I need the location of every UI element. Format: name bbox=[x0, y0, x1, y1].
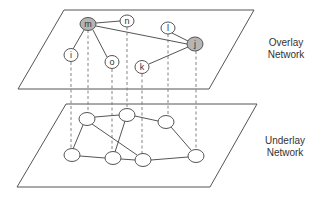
overlay-node-l: l bbox=[161, 22, 175, 34]
overlay-node-i: i bbox=[64, 49, 78, 62]
underlay-node bbox=[105, 152, 121, 165]
overlay-plane bbox=[18, 10, 254, 89]
overlay-underlay-diagram: m n l j i o k bbox=[0, 0, 312, 201]
underlay-node bbox=[119, 109, 135, 122]
underlay-node bbox=[158, 116, 174, 129]
svg-text:l: l bbox=[167, 23, 169, 33]
svg-text:o: o bbox=[109, 57, 114, 67]
overlay-node-k: k bbox=[135, 61, 149, 74]
overlay-node-o: o bbox=[105, 56, 119, 69]
underlay-label-line2: Network bbox=[252, 147, 312, 159]
svg-text:j: j bbox=[193, 39, 196, 49]
overlay-label-line2: Network bbox=[256, 49, 312, 61]
underlay-node bbox=[135, 154, 151, 167]
svg-text:k: k bbox=[140, 62, 145, 72]
underlay-node bbox=[188, 150, 204, 163]
underlay-node bbox=[79, 113, 95, 126]
overlay-network-label: Overlay Network bbox=[256, 37, 312, 61]
underlay-network-label: Underlay Network bbox=[252, 135, 312, 159]
underlay-node bbox=[64, 149, 80, 162]
overlay-node-n: n bbox=[120, 15, 134, 27]
underlay-label-line1: Underlay bbox=[252, 135, 312, 147]
mapping-lines bbox=[71, 27, 196, 154]
overlay-node-j: j bbox=[187, 37, 203, 51]
svg-text:m: m bbox=[84, 19, 92, 29]
svg-text:n: n bbox=[124, 16, 129, 26]
svg-text:i: i bbox=[70, 50, 72, 60]
overlay-node-m: m bbox=[80, 18, 96, 31]
overlay-label-line1: Overlay bbox=[256, 37, 312, 49]
